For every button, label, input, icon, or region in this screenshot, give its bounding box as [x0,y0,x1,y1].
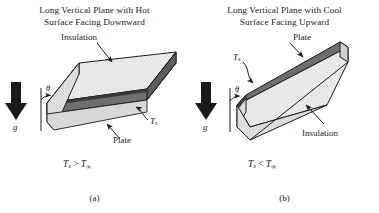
cond-lhs-sub-a: s [68,162,71,169]
figure-natural-convection-inclined-plates: Long Vertical Plane with Hot Surface Fac… [0,0,379,213]
surface-temp-subscript-b: s [238,55,241,62]
insulation-label-a: Insulation [61,32,97,42]
insulation-leader-a [97,43,112,62]
temperature-condition-a: Ts > T∞ [63,159,91,171]
panel-a-caption: (a) [0,193,189,203]
gravity-arrow-b [195,82,217,120]
plate-label-a: Plate [113,135,131,145]
cond-operator-a: > [73,159,78,169]
gravity-arrow-a [5,82,27,120]
insulation-label-b: Insulation [302,128,338,138]
theta-label-a: θ [46,83,50,93]
plate-leader-b [290,43,303,57]
gravity-label-b: g [203,122,208,132]
cond-lhs-sub-b: s [253,162,256,169]
temperature-condition-b: Ts < T∞ [248,159,276,171]
plate-label-b: Plate [293,32,311,42]
cond-rhs-sub-a: ∞ [86,162,91,171]
cond-operator-b: < [258,159,263,169]
panel-a: Long Vertical Plane with Hot Surface Fac… [0,0,189,213]
surface-temp-leader-b [243,62,253,83]
panel-b-drawing [190,0,379,213]
theta-label-b: θ [235,84,239,94]
gravity-label-a: g [13,122,18,132]
surface-temp-label-a: Ts [150,116,158,128]
panel-b-caption: (b) [190,193,379,203]
theta-arc-b [230,96,240,101]
cond-rhs-sub-b: ∞ [271,162,276,171]
surface-temp-label-b: Ts [233,52,241,64]
surface-temp-subscript-a: s [155,119,158,126]
panel-b: Long Vertical Plane with Cool Surface Fa… [190,0,379,213]
